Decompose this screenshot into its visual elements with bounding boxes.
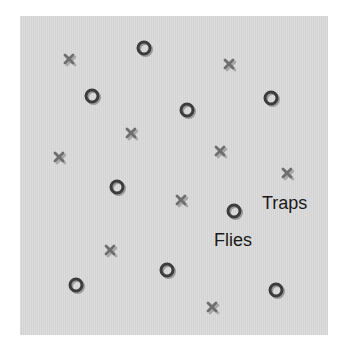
fly-circle-icon (176, 99, 198, 121)
traps-label: Traps (262, 194, 307, 212)
fly-circle-icon (81, 85, 103, 107)
fly-circle-icon (265, 279, 287, 301)
trap-cross-icon (219, 54, 241, 76)
fly-circle-icon (156, 259, 178, 281)
trap-cross-icon (202, 297, 224, 319)
trap-cross-icon (121, 123, 143, 145)
trap-cross-icon (49, 147, 71, 169)
fly-circle-icon (260, 87, 282, 109)
trap-cross-icon (100, 240, 122, 262)
fly-circle-icon (65, 274, 87, 296)
fly-circle-icon (106, 176, 128, 198)
fly-circle-icon (133, 37, 155, 59)
trap-cross-icon (59, 49, 81, 71)
trap-cross-icon (210, 141, 232, 163)
trap-cross-icon (277, 163, 299, 185)
flies-label: Flies (214, 231, 252, 249)
trap-cross-icon (171, 190, 193, 212)
fly-circle-icon (223, 200, 245, 222)
